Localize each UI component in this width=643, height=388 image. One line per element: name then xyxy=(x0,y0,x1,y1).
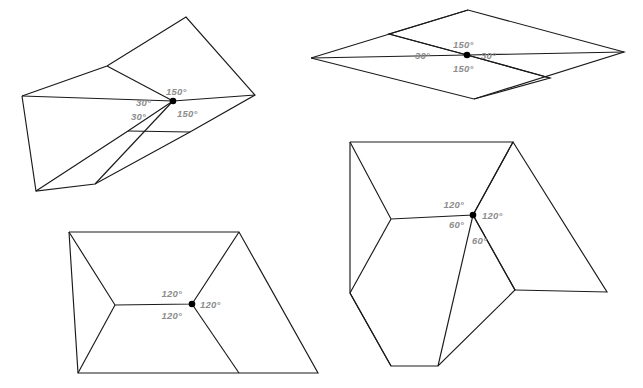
figure-edge xyxy=(78,305,115,373)
figure-edge xyxy=(350,142,515,366)
top-right-rhombus-grid: 150°30°30°150° xyxy=(311,10,624,99)
vertex-marker-dot xyxy=(464,52,471,59)
diagram-canvas: 150°30°30°150°150°30°30°150°120°120°120°… xyxy=(0,0,643,388)
angle-label-120-lower: 120° xyxy=(162,310,182,321)
geometry-diagram: 150°30°30°150°150°30°30°150°120°120°120°… xyxy=(0,0,643,388)
figure-edge xyxy=(192,304,239,373)
figure-edge xyxy=(473,215,515,290)
angle-label-60-below: 60° xyxy=(472,235,487,246)
angle-label-150-top: 150° xyxy=(453,39,473,50)
figure-edge xyxy=(69,232,239,305)
bottom-right-hexagon-rhombi: 120°120°60°60° xyxy=(350,142,607,366)
figure-edge xyxy=(350,142,513,219)
figure-edge xyxy=(350,293,391,366)
angle-label-120-right: 120° xyxy=(200,299,220,310)
angle-label-30-lower-left: 30° xyxy=(131,111,146,122)
angle-label-60-lower-left: 60° xyxy=(449,219,464,230)
angle-label-120-upper-left: 120° xyxy=(444,199,464,210)
figures-layer: 150°30°30°150°150°30°30°150°120°120°120°… xyxy=(22,10,624,373)
angle-label-150-bottom: 150° xyxy=(177,108,197,119)
angle-label-120-right: 120° xyxy=(482,210,502,221)
figure-edge xyxy=(128,131,190,132)
top-left-rhombus-tiling: 150°30°30°150° xyxy=(22,17,255,191)
figure-edge xyxy=(350,219,391,293)
figure-edge xyxy=(107,66,173,101)
figure-edge xyxy=(467,55,550,78)
angle-label-150-bottom: 150° xyxy=(453,63,473,74)
figure-edge xyxy=(36,101,173,191)
vertex-marker-dot xyxy=(189,301,196,308)
vertex-marker-dot xyxy=(170,98,177,105)
angle-label-30-left: 30° xyxy=(136,97,151,108)
figure-edge xyxy=(513,142,607,292)
bottom-left-hexagon-parallelogram: 120°120°120° xyxy=(69,232,318,373)
vertex-marker-dot xyxy=(470,212,477,219)
angle-label-120-upper: 120° xyxy=(162,288,182,299)
angle-label-30-right: 30° xyxy=(481,50,496,61)
figure-edge xyxy=(438,215,473,366)
angle-label-150-top: 150° xyxy=(166,86,186,97)
angle-label-30-left: 30° xyxy=(415,50,430,61)
